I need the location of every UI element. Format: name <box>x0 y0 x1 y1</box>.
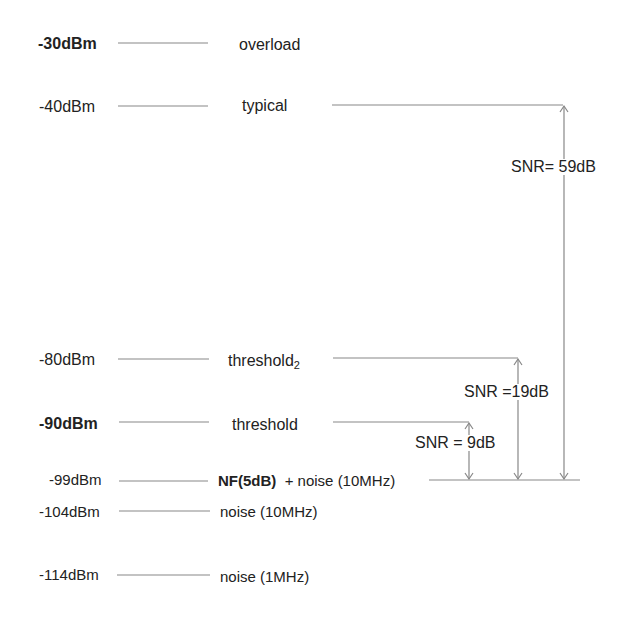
level-label-threshold: -90dBm <box>39 416 98 432</box>
desc-noise-10mhz: noise (10MHz) <box>220 504 318 519</box>
level-label-noise-10mhz: -104dBm <box>39 504 100 519</box>
level-label-noise-1mhz: -114dBm <box>39 567 99 582</box>
snr-19db-label: SNR =19dB <box>464 384 549 400</box>
desc-typical: typical <box>242 98 287 114</box>
snr-9db-label: SNR = 9dB <box>415 435 495 451</box>
desc-overload: overload <box>239 37 300 53</box>
diagram-lines <box>0 0 626 624</box>
desc-noise-1mhz: noise (1MHz) <box>220 569 309 584</box>
snr-59db-label: SNR= 59dB <box>510 159 597 175</box>
level-label-typical: -40dBm <box>39 99 95 115</box>
level-label-overload: -30dBm <box>38 36 97 52</box>
desc-nf-noise: NF(5dB) + noise (10MHz) <box>218 473 395 488</box>
desc-threshold2: threshold2 <box>228 353 300 369</box>
level-label-threshold2: -80dBm <box>39 352 95 368</box>
level-label-nf-noise: -99dBm <box>49 472 102 487</box>
desc-threshold: threshold <box>232 417 298 433</box>
